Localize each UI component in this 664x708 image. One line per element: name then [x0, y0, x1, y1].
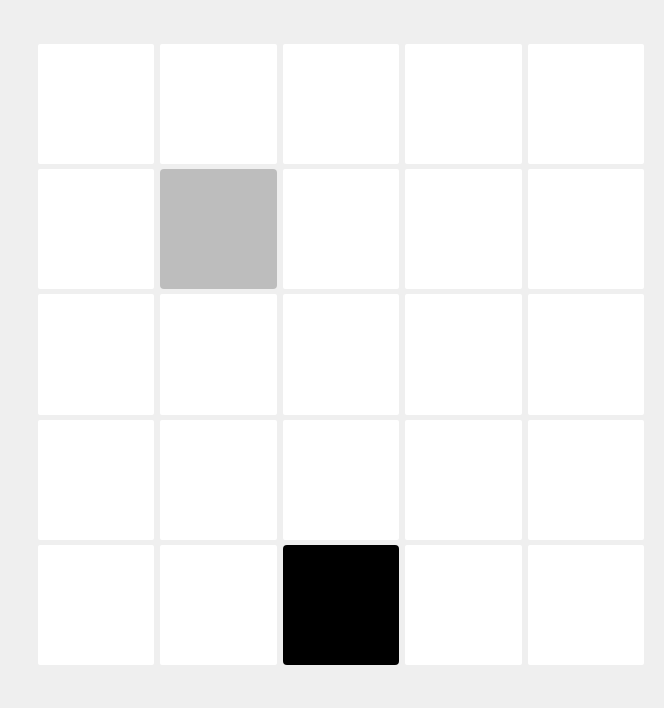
- grid-cell-r1-c2[interactable]: [283, 169, 399, 289]
- grid-cell-r3-c0[interactable]: [38, 420, 154, 540]
- grid-cell-r2-c4[interactable]: [528, 294, 644, 414]
- grid-cell-r3-c1[interactable]: [160, 420, 276, 540]
- grid-cell-r1-c4[interactable]: [528, 169, 644, 289]
- grid-cell-r4-c3[interactable]: [405, 545, 521, 665]
- grid-cell-r2-c1[interactable]: [160, 294, 276, 414]
- grid-cell-r4-c1[interactable]: [160, 545, 276, 665]
- grid-cell-r4-c2-black[interactable]: [283, 545, 399, 665]
- grid-cell-r2-c0[interactable]: [38, 294, 154, 414]
- grid-cell-r1-c0[interactable]: [38, 169, 154, 289]
- game-board: [38, 44, 644, 665]
- grid-cell-r4-c0[interactable]: [38, 545, 154, 665]
- grid-cell-r0-c1[interactable]: [160, 44, 276, 164]
- grid-cell-r3-c4[interactable]: [528, 420, 644, 540]
- grid-cell-r1-c3[interactable]: [405, 169, 521, 289]
- grid-cell-r1-c1-gray[interactable]: [160, 169, 276, 289]
- grid-cell-r2-c2[interactable]: [283, 294, 399, 414]
- grid-cell-r3-c3[interactable]: [405, 420, 521, 540]
- grid-cell-r2-c3[interactable]: [405, 294, 521, 414]
- grid-cell-r0-c0[interactable]: [38, 44, 154, 164]
- grid-cell-r0-c4[interactable]: [528, 44, 644, 164]
- grid-cell-r0-c2[interactable]: [283, 44, 399, 164]
- grid-cell-r0-c3[interactable]: [405, 44, 521, 164]
- grid-cell-r3-c2[interactable]: [283, 420, 399, 540]
- grid-cell-r4-c4[interactable]: [528, 545, 644, 665]
